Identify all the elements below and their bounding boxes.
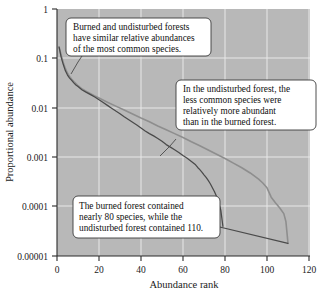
x-tick-label-80: 80	[220, 265, 230, 275]
x-axis-ticks	[57, 256, 309, 261]
callout-less-common-species-line-1: In the undisturbed forest, the	[183, 84, 290, 94]
x-tick-label-60: 60	[178, 265, 188, 275]
callout-less-common-species-line-4: than in the burned forest.	[183, 117, 276, 127]
x-axis-title: Abundance rank	[149, 279, 219, 290]
x-tick-label-0: 0	[55, 265, 60, 275]
callout-less-common-species: In the undisturbed forest, the less comm…	[176, 80, 316, 130]
callout-common-species-line-1: Burned and undisturbed forests	[73, 22, 190, 32]
x-tick-label-40: 40	[136, 265, 146, 275]
y-tick-label-1: 1	[43, 5, 48, 15]
x-tick-label-120: 120	[302, 265, 317, 275]
callout-species-counts: The burned forest contained nearly 80 sp…	[73, 196, 220, 238]
callout-species-counts-line-3: undisturbed forest contained 110.	[79, 223, 203, 233]
x-tick-label-100: 100	[260, 265, 275, 275]
y-axis-tick-labels: 1 0.1 0.01 0.001 0.0001 0.00001	[17, 5, 48, 262]
y-tick-label-0.00001: 0.00001	[17, 252, 48, 262]
y-axis-ticks	[52, 9, 57, 256]
callout-species-counts-line-2: nearly 80 species, while the	[79, 212, 182, 222]
y-tick-label-0.01: 0.01	[31, 104, 48, 114]
x-tick-label-20: 20	[94, 265, 104, 275]
x-axis-tick-labels: 0 20 40 60 80 100 120	[55, 265, 317, 275]
callout-common-species-line-3: of the most common species.	[73, 44, 181, 54]
y-tick-label-0.0001: 0.0001	[22, 202, 48, 212]
callout-common-species-line-2: have similar relative abundances	[73, 33, 195, 43]
y-tick-label-0.1: 0.1	[36, 54, 48, 64]
y-tick-label-0.001: 0.001	[27, 153, 49, 163]
callout-less-common-species-line-2: less common species were	[183, 95, 281, 105]
callout-less-common-species-line-3: relatively more abundant	[183, 106, 276, 116]
callout-species-counts-line-1: The burned forest contained	[79, 201, 184, 211]
y-axis-title: Proportional abundance	[4, 82, 15, 182]
figure-container: 1 0.1 0.01 0.001 0.0001 0.00001 0 20 40 …	[0, 0, 323, 294]
abundance-rank-chart: 1 0.1 0.01 0.001 0.0001 0.00001 0 20 40 …	[0, 0, 323, 294]
callout-common-species: Burned and undisturbed forests have simi…	[66, 18, 211, 56]
